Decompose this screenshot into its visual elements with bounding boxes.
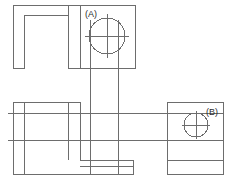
label-a: (A) [85,9,97,19]
label-b: (B) [206,107,218,117]
canvas-background [0,0,233,183]
orthographic-drawing: (A) (B) [0,0,233,183]
drawing-canvas: (A) (B) [0,0,233,183]
